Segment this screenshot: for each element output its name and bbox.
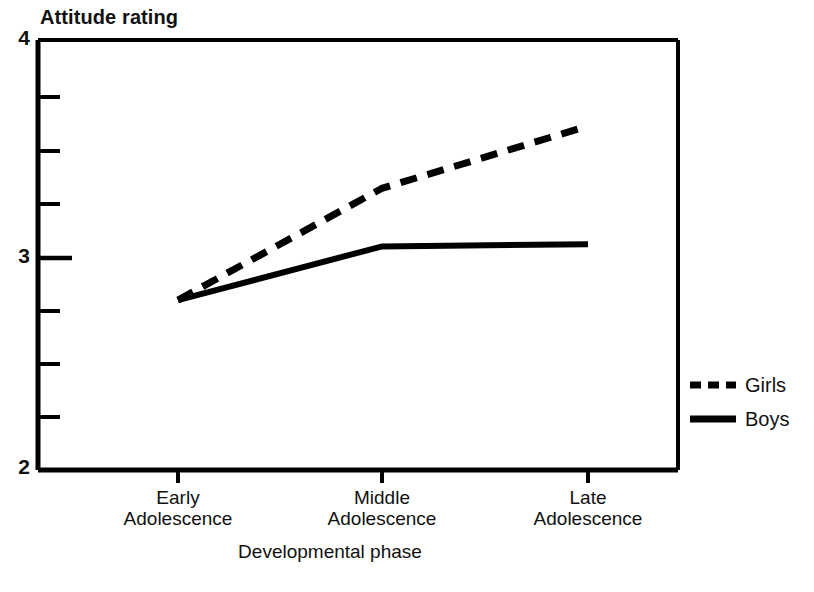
legend-swatch-dashed-icon [690, 378, 736, 392]
x-tick-label-early: Early Adolescence [68, 487, 288, 530]
x-tick-label-middle-line1: Middle [272, 487, 492, 508]
x-tick-label-early-line2: Adolescence [68, 508, 288, 529]
legend-swatch-solid-icon [690, 412, 736, 426]
x-tick-label-middle: Middle Adolescence [272, 487, 492, 530]
legend-item-girls: Girls [690, 368, 814, 402]
x-tick-label-late-line2: Adolescence [478, 508, 698, 529]
legend-label-boys: Boys [745, 408, 789, 431]
x-axis-title: Developmental phase [0, 541, 660, 563]
series-line-boys [178, 244, 588, 300]
x-tick-label-late-line1: Late [478, 487, 698, 508]
x-tick-label-middle-line2: Adolescence [272, 508, 492, 529]
chart-figure: Attitude rating 4 3 2 [0, 0, 814, 592]
series-line-girls [178, 126, 588, 300]
x-tick-label-early-line1: Early [68, 487, 288, 508]
chart-legend: Girls Boys [690, 368, 814, 436]
y-axis-ticks [38, 97, 72, 417]
x-tick-label-late: Late Adolescence [478, 487, 698, 530]
legend-label-girls: Girls [745, 374, 786, 397]
legend-item-boys: Boys [690, 402, 814, 436]
